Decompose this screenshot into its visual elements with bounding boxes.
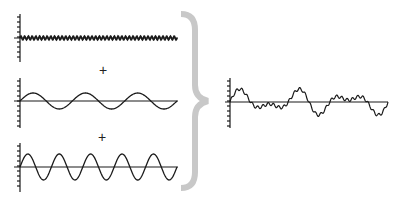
result-axes — [225, 78, 388, 128]
high-frequency-wave — [20, 36, 177, 40]
panel-3-axes — [14, 143, 178, 192]
curly-brace — [181, 14, 208, 188]
superposition-diagram — [0, 0, 399, 204]
plus-sign-1: + — [99, 63, 107, 77]
plus-sign-2: + — [98, 130, 106, 144]
